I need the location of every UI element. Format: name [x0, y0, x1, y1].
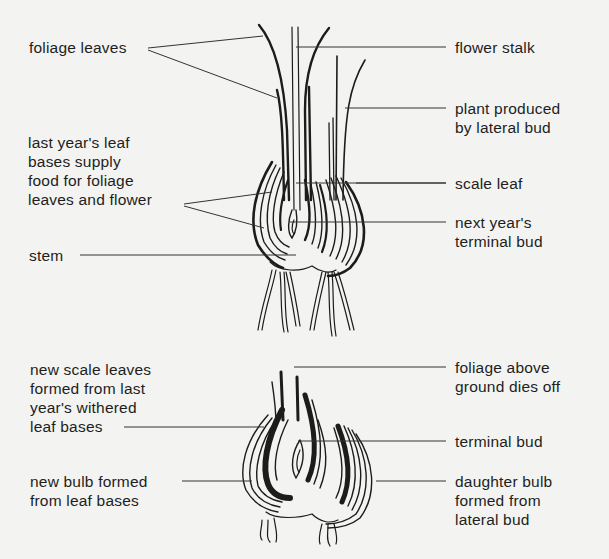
label-new-scale-leaves: new scale leaves formed from last year's… — [30, 360, 151, 436]
label-foliage-leaves: foliage leaves — [29, 38, 127, 57]
label-stem: stem — [29, 246, 63, 265]
label-terminal-bud: terminal bud — [455, 432, 543, 451]
bottom-bulb-drawing — [243, 372, 372, 546]
label-next-years-terminal-bud: next year's terminal bud — [455, 213, 543, 251]
label-new-bulb: new bulb formed from leaf bases — [30, 472, 148, 510]
label-flower-stalk: flower stalk — [455, 38, 535, 57]
label-last-years-leaf-bases: last year's leaf bases supply food for f… — [28, 133, 152, 209]
onion-bulb-diagram: foliage leaves flower stalk plant produc… — [0, 0, 609, 559]
label-scale-leaf: scale leaf — [455, 174, 522, 193]
top-plant-drawing — [253, 25, 365, 336]
label-plant-produced-by-lateral-bud: plant produced by lateral bud — [455, 99, 560, 137]
label-daughter-bulb: daughter bulb formed from lateral bud — [455, 472, 552, 529]
label-foliage-dies-off: foliage above ground dies off — [455, 358, 560, 396]
